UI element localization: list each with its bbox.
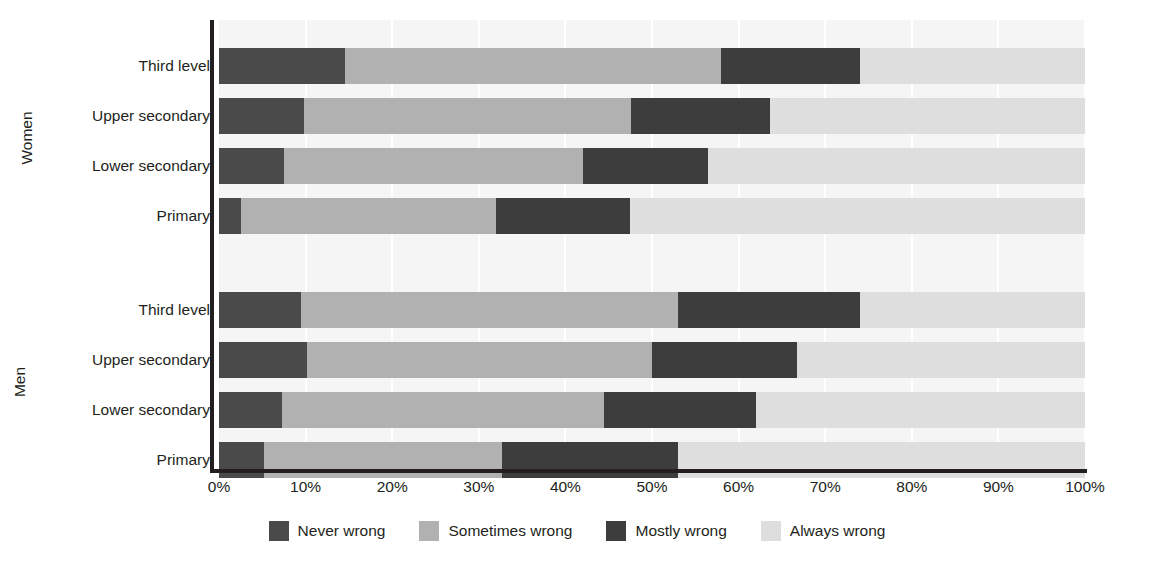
y-axis-tick-label: Upper secondary: [40, 342, 210, 378]
y-axis-tick-label: Primary: [40, 198, 210, 234]
x-axis-tick-label: 80%: [872, 478, 952, 496]
bar-segment[interactable]: [219, 198, 241, 234]
bar-segment[interactable]: [860, 292, 1085, 328]
bar-row[interactable]: [219, 198, 1085, 234]
y-axis-tick-label-wrap: Lower secondary: [30, 392, 210, 428]
group-axis-label-text: Women: [18, 111, 36, 164]
y-axis-tick-label: Third level: [40, 48, 210, 84]
y-axis-tick-label: Third level: [40, 292, 210, 328]
bar-segment[interactable]: [678, 292, 860, 328]
legend-label: Always wrong: [790, 522, 886, 540]
x-axis-tick-label: 40%: [525, 478, 605, 496]
bar-segment[interactable]: [604, 392, 756, 428]
legend-label: Mostly wrong: [635, 522, 726, 540]
legend-swatch-icon: [269, 521, 289, 541]
bar-row[interactable]: [219, 148, 1085, 184]
y-axis-tick-label: Upper secondary: [40, 98, 210, 134]
x-axis-tick-label: 10%: [266, 478, 346, 496]
x-axis-tick-labels: 0%10%20%30%40%50%60%70%80%90%100%: [0, 478, 1154, 504]
bar-segment[interactable]: [756, 392, 1085, 428]
x-axis-tick-label: 100%: [1045, 478, 1125, 496]
legend-item[interactable]: Always wrong: [761, 521, 886, 541]
bar-segment[interactable]: [770, 98, 1085, 134]
bar-segment[interactable]: [219, 148, 284, 184]
x-axis-tick-label: 70%: [785, 478, 865, 496]
y-axis-tick-label-wrap: Third level: [30, 48, 210, 84]
group-axis-label-women: Women: [0, 129, 40, 147]
y-axis-tick-label-wrap: Primary: [30, 442, 210, 478]
bar-segment[interactable]: [301, 292, 678, 328]
y-axis-tick-label-wrap: Third level: [30, 292, 210, 328]
bar-segment[interactable]: [219, 98, 304, 134]
legend-item[interactable]: Never wrong: [269, 521, 386, 541]
legend-item[interactable]: Mostly wrong: [606, 521, 726, 541]
bar-segment[interactable]: [304, 98, 631, 134]
bar-segment[interactable]: [345, 48, 722, 84]
x-axis-tick-label: 60%: [699, 478, 779, 496]
legend-label: Never wrong: [298, 522, 386, 540]
bar-segment[interactable]: [496, 198, 630, 234]
y-axis-tick-label-wrap: Lower secondary: [30, 148, 210, 184]
bar-segment[interactable]: [708, 148, 1085, 184]
x-axis-tick-label: 0%: [179, 478, 259, 496]
x-axis-tick-label: 50%: [612, 478, 692, 496]
y-axis-line: [210, 20, 214, 473]
bar-row[interactable]: [219, 48, 1085, 84]
y-axis-tick-label: Lower secondary: [40, 392, 210, 428]
bar-segment[interactable]: [652, 342, 797, 378]
x-axis-tick-label: 30%: [439, 478, 519, 496]
x-axis-line: [210, 469, 1087, 473]
bar-segment[interactable]: [219, 342, 307, 378]
legend-swatch-icon: [419, 521, 439, 541]
y-axis-tick-label-wrap: Primary: [30, 198, 210, 234]
bar-segment[interactable]: [860, 48, 1085, 84]
x-axis-tick-label: 20%: [352, 478, 432, 496]
bar-segment[interactable]: [284, 148, 583, 184]
legend-item[interactable]: Sometimes wrong: [419, 521, 572, 541]
bar-row[interactable]: [219, 292, 1085, 328]
bar-segment[interactable]: [631, 98, 770, 134]
bar-segment[interactable]: [219, 292, 301, 328]
bar-segment[interactable]: [219, 48, 345, 84]
bar-segment[interactable]: [797, 342, 1085, 378]
group-axis-label-text: Men: [11, 367, 29, 397]
bar-segment[interactable]: [241, 198, 496, 234]
bar-segment[interactable]: [583, 148, 709, 184]
stacked-bar-chart: Third levelUpper secondaryLower secondar…: [0, 0, 1154, 582]
y-axis-tick-label-wrap: Upper secondary: [30, 342, 210, 378]
bar-segment[interactable]: [219, 392, 282, 428]
legend-swatch-icon: [606, 521, 626, 541]
bar-row[interactable]: [219, 392, 1085, 428]
y-axis-tick-label-wrap: Upper secondary: [30, 98, 210, 134]
y-axis-tick-label: Primary: [40, 442, 210, 478]
bar-row[interactable]: [219, 98, 1085, 134]
bar-row[interactable]: [219, 342, 1085, 378]
bar-segment[interactable]: [282, 392, 604, 428]
x-axis-tick-label: 90%: [958, 478, 1038, 496]
bar-segment[interactable]: [307, 342, 652, 378]
bar-segment[interactable]: [721, 48, 860, 84]
legend-label: Sometimes wrong: [448, 522, 572, 540]
group-axis-label-men: Men: [0, 373, 40, 391]
bar-segment[interactable]: [630, 198, 1085, 234]
legend: Never wrongSometimes wrongMostly wrongAl…: [0, 521, 1154, 541]
legend-swatch-icon: [761, 521, 781, 541]
y-axis-tick-label: Lower secondary: [40, 148, 210, 184]
